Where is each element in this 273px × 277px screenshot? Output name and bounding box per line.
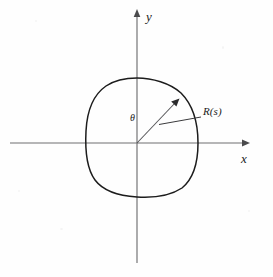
angle-theta-label: θ [130,113,135,123]
figure-svg [0,0,273,277]
x-axis-label: x [241,152,247,165]
x-axis-arrowhead [242,140,250,147]
y-axis-arrowhead [134,9,141,17]
figure-container: y x θ R(s) [0,0,273,277]
y-axis-label: y [146,10,152,23]
radius-rs-label: R(s) [203,106,222,117]
radius-leader-line [159,117,201,125]
